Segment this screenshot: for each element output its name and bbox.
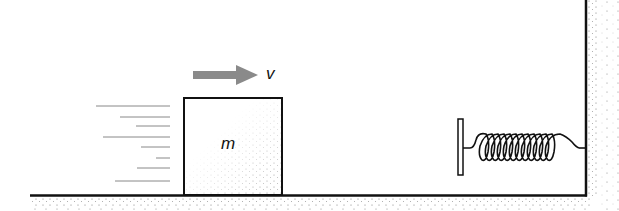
ground-texture [30, 197, 590, 211]
block-spring-diagram [0, 0, 619, 211]
spring [458, 119, 586, 175]
velocity-arrow-icon [193, 65, 258, 85]
wall-texture [587, 0, 619, 211]
spring-plate [458, 119, 463, 175]
motion-lines [96, 106, 170, 181]
velocity-label: v [266, 64, 275, 84]
mass-label: m [221, 134, 235, 154]
